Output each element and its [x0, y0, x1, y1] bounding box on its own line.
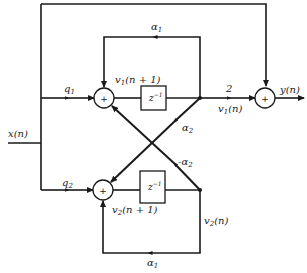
neg-alpha2-label: -α2: [178, 156, 193, 169]
gain-two-label: 2: [225, 83, 232, 94]
v1-next-label: v1(n + 1): [115, 74, 161, 87]
alpha1-top-label: α1: [151, 21, 162, 34]
adder-output-plus: +: [261, 94, 269, 104]
adder-lower-plus: +: [99, 186, 107, 196]
alpha2-arrow: [175, 98, 200, 121]
v2-next-label: v2(n + 1): [112, 204, 158, 217]
adder-upper-plus: +: [100, 94, 108, 104]
coupled-form-filter-diagram: + z−1 + + z−1 x(n) y(n) q1 q2 α1 α1 α2 -…: [0, 0, 307, 273]
output-label: y(n): [279, 84, 300, 95]
input-label: x(n): [8, 128, 28, 139]
v1-label: v1(n): [218, 103, 242, 116]
q1-label: q1: [64, 83, 75, 96]
alpha1-bottom-label: α1: [147, 257, 158, 270]
q2-label: q2: [62, 177, 73, 190]
cross-v2-to-upper: [112, 106, 176, 165]
v2-label: v2(n): [204, 215, 228, 228]
alpha2-label: α2: [182, 122, 194, 135]
